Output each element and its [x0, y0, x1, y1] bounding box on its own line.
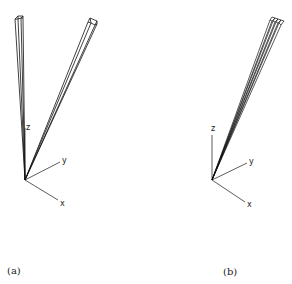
panel-a: z y x: [15, 16, 97, 208]
z-axis-label-b: z: [211, 124, 215, 133]
caption-a: (a): [7, 265, 21, 276]
z-axis-label-a: z: [26, 123, 30, 132]
prism-a-1: [15, 16, 25, 180]
caption-b: (b): [223, 266, 237, 277]
prism-b-4: [212, 20, 284, 180]
x-axis-a: [25, 180, 58, 200]
y-axis-label-a: y: [62, 156, 67, 165]
prism-a-2: [25, 18, 97, 180]
x-axis-label-b: x: [247, 200, 252, 209]
y-axis-a: [25, 162, 60, 180]
y-axis-label-b: y: [249, 157, 254, 166]
x-axis-b: [212, 180, 245, 202]
figure-canvas: z y x z: [0, 0, 292, 284]
panel-b: z y x: [211, 17, 284, 209]
x-axis-label-a: x: [60, 199, 65, 208]
